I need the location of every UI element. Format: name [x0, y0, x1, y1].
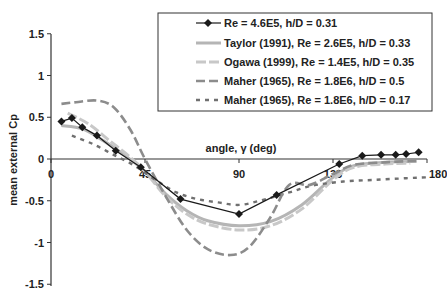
y-tick-label: 1.5 — [29, 28, 44, 40]
x-tick-label: 180 — [429, 168, 447, 180]
legend-label: Re = 4.6E5, h/D = 0.31 — [224, 17, 337, 29]
diamond-marker — [402, 150, 410, 158]
diamond-marker — [377, 151, 385, 159]
y-tick-label: -0.5 — [25, 195, 44, 207]
legend: Re = 4.6E5, h/D = 0.31Taylor (1991), Re … — [158, 13, 432, 111]
x-tick-label: 90 — [233, 168, 245, 180]
diamond-marker — [392, 151, 400, 159]
legend-label: Taylor (1991), Re = 2.6E5, h/D = 0.33 — [224, 37, 410, 49]
diamond-marker — [335, 160, 343, 168]
diamond-marker — [415, 148, 423, 156]
legend-item: Maher (1965), Re = 1.8E6, h/D = 0.17 — [196, 94, 410, 106]
series-0 — [57, 114, 422, 218]
y-tick-label: 0.5 — [29, 111, 44, 123]
legend-item: Taylor (1991), Re = 2.6E5, h/D = 0.33 — [196, 37, 410, 49]
legend-item: Maher (1965), Re = 1.8E6, h/D = 0.5 — [196, 75, 404, 87]
y-tick-label: 1 — [38, 70, 44, 82]
x-axis-title: angle, γ (deg) — [206, 142, 277, 154]
y-tick-label: -1.5 — [25, 278, 44, 290]
diamond-marker — [235, 210, 243, 218]
y-tick-label: 0 — [38, 153, 44, 165]
diamond-marker — [57, 117, 65, 125]
y-ticks: 1.510.50-0.5-1-1.5 — [25, 28, 51, 291]
legend-item: Ogawa (1999), Re = 1.4E5, h/D = 0.35 — [196, 56, 414, 68]
y-axis-title: mean external Cp — [7, 114, 19, 206]
chart-figure: 1.510.50-0.5-1-1.5 04590135180 angle, γ … — [0, 0, 447, 301]
y-tick-label: -1 — [34, 237, 44, 249]
legend-label: Maher (1965), Re = 1.8E6, h/D = 0.5 — [224, 75, 404, 87]
legend-label: Ogawa (1999), Re = 1.4E5, h/D = 0.35 — [224, 56, 414, 68]
x-tick-label: 0 — [48, 168, 54, 180]
legend-label: Maher (1965), Re = 1.8E6, h/D = 0.17 — [224, 94, 410, 106]
